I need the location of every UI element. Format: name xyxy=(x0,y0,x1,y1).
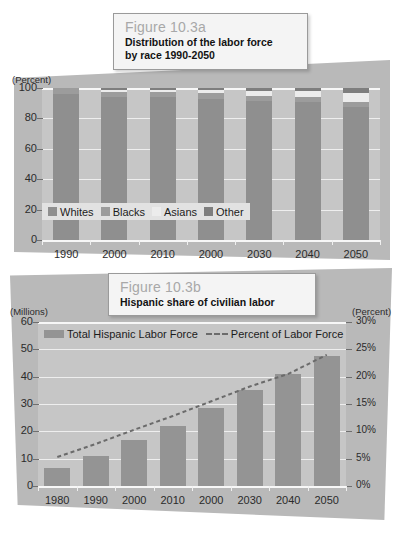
figure-b-percent-dashed-polyline xyxy=(57,355,327,457)
figure-b-legend-dash-swatch xyxy=(206,333,228,335)
figure-b-title-card: Figure 10.3b Hispanic share of civilian … xyxy=(108,273,316,316)
figure-b-legend: Total Hispanic Labor ForcePercent of Lab… xyxy=(44,326,343,342)
figure-b-legend-swatch xyxy=(44,330,64,338)
figure-b-legend-item: Total Hispanic Labor Force xyxy=(44,328,198,340)
figure-b-legend-label: Total Hispanic Labor Force xyxy=(67,328,198,340)
figure-b-title: Hispanic share of civilian labor xyxy=(120,296,306,309)
figure-b-legend-item: Percent of Labor Force xyxy=(206,328,344,340)
figure-b-number: Figure 10.3b xyxy=(120,279,306,296)
figure-b-legend-label: Percent of Labor Force xyxy=(231,328,344,340)
